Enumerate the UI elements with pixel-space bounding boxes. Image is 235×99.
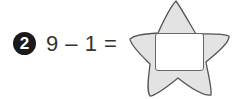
answer-input-box[interactable] [155,33,204,71]
